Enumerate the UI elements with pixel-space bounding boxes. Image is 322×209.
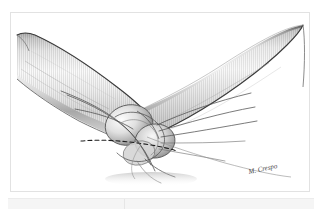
cast-shadow: [105, 172, 197, 186]
footer-divider: [124, 199, 125, 209]
footer-band: [8, 199, 314, 209]
elbow-illustration: M. Crespo: [11, 13, 309, 191]
figure-frame: M. Crespo: [10, 12, 310, 192]
page-canvas: M. Crespo: [0, 0, 322, 209]
